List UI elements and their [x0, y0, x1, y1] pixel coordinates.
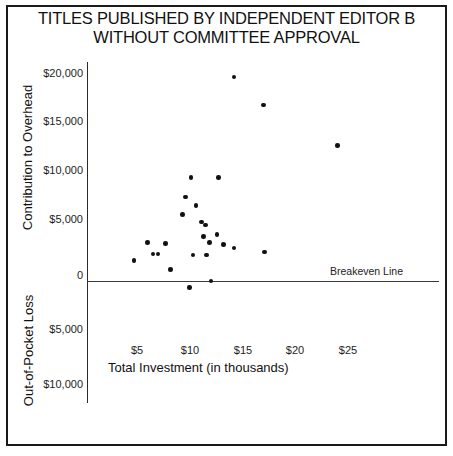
scatter-point	[189, 175, 194, 180]
scatter-point	[216, 175, 221, 180]
scatter-point	[132, 258, 137, 263]
scatter-point	[191, 253, 196, 258]
x-tick-label: $15	[234, 344, 252, 356]
scatter-point	[232, 246, 237, 251]
x-tick-label: $25	[339, 344, 357, 356]
scatter-point	[209, 279, 214, 284]
scatter-point	[180, 212, 185, 217]
scatter-point	[163, 241, 168, 246]
scatter-point	[203, 223, 208, 228]
scatter-point	[221, 242, 226, 247]
scatter-point	[156, 252, 161, 257]
scatter-point	[261, 103, 266, 108]
scatter-point	[168, 267, 173, 272]
scatter-point	[194, 203, 199, 208]
scatter-point	[151, 252, 156, 257]
x-tick-label: $5	[131, 344, 143, 356]
scatter-point	[207, 240, 212, 245]
scatter-point	[201, 234, 206, 239]
scatter-point	[215, 232, 220, 237]
scatter-point	[183, 195, 188, 200]
scatter-point	[204, 253, 209, 258]
x-tick-label: $20	[286, 344, 304, 356]
scatter-points-layer	[0, 0, 453, 456]
scatter-point	[262, 250, 267, 255]
scatter-point	[232, 75, 237, 80]
scatter-point	[335, 143, 340, 148]
scatter-point	[187, 285, 192, 290]
chart-page: TITLES PUBLISHED BY INDEPENDENT EDITOR B…	[0, 0, 453, 456]
scatter-point	[145, 240, 150, 245]
x-tick-label: $10	[181, 344, 199, 356]
